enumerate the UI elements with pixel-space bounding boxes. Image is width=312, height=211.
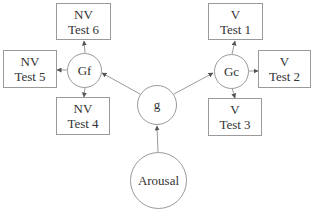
test-name: Test 1 [220, 22, 251, 37]
node-gc: Gc [214, 54, 249, 89]
test-name: Test 2 [269, 69, 300, 84]
node-label: Gc [224, 64, 239, 80]
edge-g-gf [102, 73, 140, 94]
factor-diagram: NV Test 6 NV Test 5 NV Test 4 V Test 1 V… [0, 0, 312, 211]
node-label: g [154, 97, 161, 113]
test-name: Test 5 [14, 69, 45, 84]
node-g: g [137, 85, 177, 125]
node-label: Gf [78, 63, 92, 79]
node-gf: Gf [67, 53, 102, 88]
test-box-v1: V Test 1 [208, 3, 263, 40]
node-label: Arousal [138, 173, 179, 189]
test-box-nv4: NV Test 4 [56, 97, 110, 135]
test-type: NV [21, 54, 40, 69]
test-box-nv6: NV Test 6 [56, 3, 111, 40]
test-box-v3: V Test 3 [208, 98, 262, 136]
test-name: Test 4 [67, 116, 98, 131]
edge-arousal-g [157, 126, 158, 152]
test-name: Test 6 [68, 22, 99, 37]
test-type: V [280, 54, 289, 69]
edge-gc-v3 [232, 88, 235, 98]
node-arousal: Arousal [130, 152, 187, 209]
edge-gf-nv6 [84, 41, 85, 53]
test-type: V [231, 7, 240, 22]
test-type: NV [74, 7, 93, 22]
edge-gf-nv4 [84, 87, 85, 97]
edge-gc-v1 [232, 41, 235, 54]
test-type: NV [74, 101, 93, 116]
test-box-v2: V Test 2 [258, 50, 311, 88]
test-type: V [230, 102, 239, 117]
test-name: Test 3 [219, 117, 250, 132]
edge-g-gc [174, 73, 213, 94]
test-box-nv5: NV Test 5 [3, 50, 57, 88]
